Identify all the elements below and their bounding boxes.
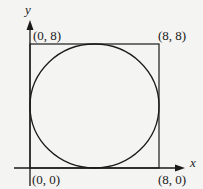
- x-axis-label: x: [189, 155, 196, 170]
- point-label-top-right: (8, 8): [158, 28, 186, 43]
- inscribed-circle: [30, 44, 159, 168]
- x-axis-arrow-icon: [175, 165, 185, 172]
- point-label-top-left: (0, 8): [33, 28, 61, 43]
- coordinate-diagram: y x (0, 8) (8, 8) (0, 0) (8, 0): [0, 0, 203, 189]
- point-label-origin: (0, 0): [32, 172, 60, 187]
- y-axis-label: y: [23, 2, 31, 17]
- point-label-bottom-right: (8, 0): [158, 172, 186, 187]
